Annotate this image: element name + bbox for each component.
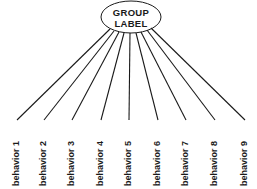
behavior-label-2: behavior 2 — [38, 141, 48, 186]
behavior-label-3: behavior 3 — [66, 141, 76, 186]
behavior-label-4: behavior 4 — [95, 141, 105, 186]
group-label-line-1: GROUP — [113, 7, 149, 18]
connector-line-5 — [129, 33, 130, 120]
behavior-label-9: behavior 9 — [239, 141, 249, 186]
connector-lines — [17, 28, 245, 120]
group-label: GROUP LABEL — [101, 2, 161, 34]
behavior-label-6: behavior 6 — [152, 141, 162, 186]
connector-line-8 — [147, 30, 215, 120]
connector-line-7 — [141, 32, 186, 120]
connector-line-4 — [101, 33, 124, 120]
group-label-line-2: LABEL — [114, 18, 147, 29]
behavior-label-5: behavior 5 — [123, 141, 133, 186]
behavior-label-7: behavior 7 — [180, 141, 190, 186]
behavior-label-1: behavior 1 — [11, 141, 21, 186]
behavior-label-8: behavior 8 — [209, 141, 219, 186]
connector-line-6 — [136, 33, 158, 120]
connector-line-9 — [151, 28, 245, 120]
